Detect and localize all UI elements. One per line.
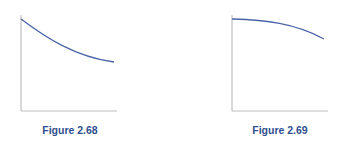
decreasing-concave-down-curve [232, 19, 324, 39]
figure-caption: Figure 2.69 [252, 124, 307, 136]
figure-2-69: Figure 2.69 [0, 0, 351, 149]
